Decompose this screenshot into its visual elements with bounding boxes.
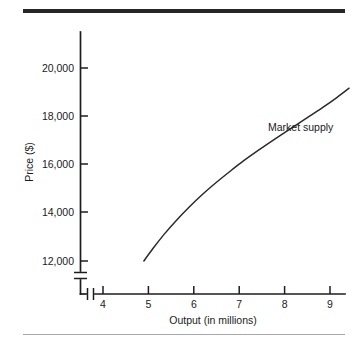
x-tick-label-8: 8 (282, 298, 288, 310)
y-axis-break-icon (74, 273, 87, 279)
figure-container: 20,000 18,000 16,000 14,000 12,000 4 5 6… (0, 0, 361, 352)
x-tick-label-5: 5 (145, 298, 151, 310)
x-tick-label-7: 7 (236, 298, 242, 310)
x-axis-title: Output (in millions) (169, 314, 257, 326)
y-tick-label-12000: 12,000 (42, 255, 74, 267)
x-tick-label-6: 6 (191, 298, 197, 310)
x-axis-break-icon (88, 288, 94, 300)
y-tick-label-14000: 14,000 (42, 206, 74, 218)
y-tick-label-18000: 18,000 (42, 110, 74, 122)
y-tick-label-16000: 16,000 (42, 158, 74, 170)
market-supply-annotation: Market supply (268, 121, 334, 133)
bottom-divider-rule (23, 334, 345, 335)
x-tick-label-4: 4 (100, 298, 106, 310)
y-tick-label-20000: 20,000 (42, 62, 74, 74)
y-axis-title: Price ($) (23, 142, 35, 182)
x-tick-label-9: 9 (327, 298, 333, 310)
market-supply-curve (144, 88, 349, 261)
supply-curve-chart: 20,000 18,000 16,000 14,000 12,000 4 5 6… (0, 0, 361, 352)
